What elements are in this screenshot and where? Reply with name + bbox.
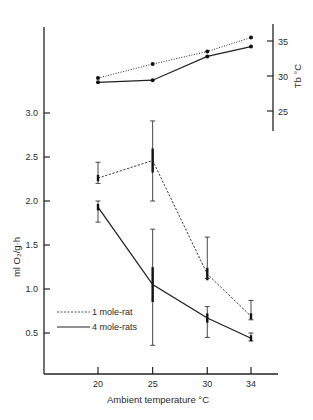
right-y-tick-label: 30 — [278, 72, 288, 82]
right-y-ticks: 253035 — [267, 37, 288, 117]
legend-label-1-mole-rat: 1 mole-rat — [92, 307, 133, 317]
tb-point-1-mole-rat — [151, 62, 155, 66]
legend: 1 mole-rat 4 mole-rats — [57, 307, 138, 332]
left-y-ticks: 0.51.01.52.02.53.0 — [25, 108, 50, 338]
tb-line-1-mole-rat — [98, 38, 251, 79]
o2-line-4-mole-rats — [98, 207, 251, 338]
x-tick-label: 34 — [246, 379, 256, 389]
left-y-tick-label: 2.0 — [25, 196, 38, 206]
right-y-tick-label: 35 — [278, 37, 288, 47]
left-y-tick-label: 0.5 — [25, 328, 38, 338]
tb-line-4-mole-rats — [98, 47, 251, 83]
left-y-tick-label: 2.5 — [25, 152, 38, 162]
tb-point-4-mole-rats — [96, 80, 100, 84]
tb-point-4-mole-rats — [151, 78, 155, 82]
o2-line-1-mole-rat — [98, 161, 251, 317]
series-layer — [96, 36, 254, 346]
right-y-tick-label: 25 — [278, 107, 288, 117]
x-ticks: 20253034 — [93, 367, 256, 389]
legend-label-4-mole-rats: 4 mole-rats — [92, 322, 138, 332]
x-tick-label: 25 — [148, 379, 158, 389]
tb-point-1-mole-rat — [249, 36, 253, 40]
tb-point-4-mole-rats — [205, 54, 209, 58]
x-tick-label: 20 — [93, 379, 103, 389]
left-y-tick-label: 3.0 — [25, 108, 38, 118]
tb-point-1-mole-rat — [205, 50, 209, 54]
left-y-tick-label: 1.0 — [25, 284, 38, 294]
chart: 0.51.01.52.02.53.0 253035 20253034 Ambie… — [0, 0, 313, 420]
x-tick-label: 30 — [202, 379, 212, 389]
tb-point-4-mole-rats — [249, 45, 253, 49]
tb-point-1-mole-rat — [96, 76, 100, 80]
left-y-tick-label: 1.5 — [25, 240, 38, 250]
left-y-axis-title: ml O₂/g·h — [11, 237, 22, 277]
right-y-axis-title: Tb °C — [292, 64, 303, 89]
x-axis-title: Ambient temperature °C — [107, 394, 209, 405]
